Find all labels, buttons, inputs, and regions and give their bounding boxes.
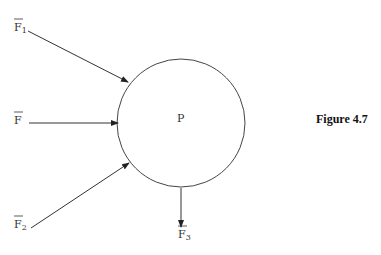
force-arrow-f2 [31, 163, 129, 228]
force-arrow-f1 [28, 31, 128, 82]
force-label-f2: F2 [14, 218, 27, 232]
center-label: P [177, 112, 185, 125]
force-label-f3: F3 [178, 228, 191, 242]
force-label-f1: F1 [14, 21, 27, 35]
figure-caption: Figure 4.7 [316, 112, 368, 126]
force-label-f: F [14, 114, 22, 127]
force-diagram: P F1 F F2 F3 Figure 4.7 [0, 0, 381, 255]
